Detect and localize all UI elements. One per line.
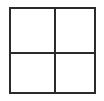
grid-cell-bottom-left [11, 51, 53, 93]
grid-divider-vertical [54, 9, 56, 92]
grid-2x2-icon [9, 7, 96, 94]
grid-cell-top-left [11, 9, 53, 51]
canvas [0, 0, 104, 101]
grid-divider-horizontal [11, 52, 94, 54]
grid-cell-top-right [53, 9, 95, 51]
grid-cell-bottom-right [53, 51, 95, 93]
